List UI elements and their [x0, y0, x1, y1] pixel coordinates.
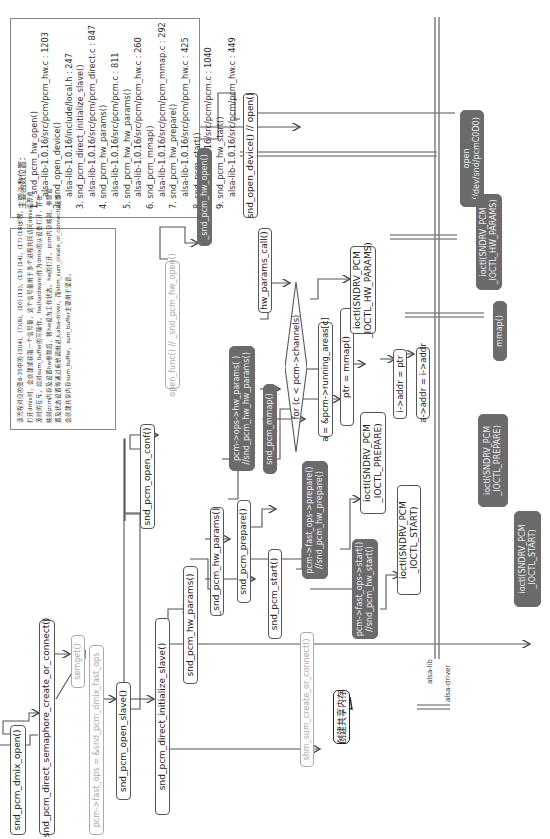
- node-line: pcm->ops->hw_params( ): [232, 356, 242, 461]
- function-location-legend: 主要函数位置： 1. _snd_pcm_hw_open() alsa-lib-1…: [10, 18, 200, 218]
- for-loop-label: for (c < pcm->channels): [285, 282, 307, 452]
- node-line: ioctl(SNDRV_PCM: [362, 424, 373, 502]
- legend-title: 主要函数位置：: [17, 27, 29, 209]
- node-snd-pcm-dmix-open: snd_pcm_dmix_open(): [10, 725, 26, 835]
- node-_snd-pcm-hw-params: _snd_pcm_hw_params(): [210, 507, 224, 616]
- node-line: //snd_pcm_hw_hw_params(): [242, 352, 252, 465]
- node-hw-open: _snd_pcm_hw_open(): [197, 148, 212, 246]
- node-ops-prepare: pcm->fast_ops->prepare() //snd_pcm_hw_pr…: [302, 461, 328, 579]
- legend-loc: alsa-lib-1.0.16/src/pcm/pcm_hw.c : 1203: [40, 27, 52, 209]
- desc-line: 会创建共享内存sum_buffer，sum_buffer主要用于混音。: [64, 235, 74, 423]
- node-ioctl-hw-params: ioctl(SNDRV_PCM _IOCTL_HW_PARAMS): [350, 246, 376, 334]
- node-semaphore-create-or-connect: snd_pcm_direct_semaphore_create_or_conne…: [39, 620, 55, 835]
- legend-loc: alsa-lib-1.0.16/src/pcm/pcm_hw.c : 449: [227, 27, 239, 209]
- node-fast-ops-assign: pcm->fast_ops = &snd_pcm_dmix_fast_ops: [89, 645, 104, 835]
- legend-func: 7. snd_pcm_hw_prepare(): [168, 27, 180, 209]
- driver-node-open: open (/dev/snd/pcmC0D0): [460, 110, 484, 207]
- node-line: _IOCTL_PREPARE): [373, 423, 384, 502]
- node-snd-pcm-open-conf: snd_pcm_open_conf(): [140, 424, 155, 529]
- node-line: ioctl(SNDRV_PCM: [352, 251, 363, 329]
- driver-node-ioctl-start: ioctl(SNDRV_PCM _IOCTL_START): [514, 511, 541, 607]
- node-line: //snd_pcm_hw_prepare(): [315, 471, 325, 569]
- legend-func: 5. snd_pcm_hw_hw_params(): [122, 27, 134, 209]
- node-line: pcm->fast_ops->prepare(): [305, 467, 315, 574]
- node-i-addr: i->addr = ptr: [393, 349, 407, 419]
- node-hw-params-call: hw_params_call(): [258, 228, 272, 313]
- node-a-addr: a->addr = i->addr: [416, 347, 430, 419]
- node-line: ioctl(SNDRV_PCM: [398, 501, 409, 579]
- node-snd-pcm-prepare: snd_pcm_prepare(): [237, 500, 251, 603]
- desc-line: 该流程对应的图8-35中的 (3)(4)、(7)(8)、(10) (11)、(1…: [16, 235, 26, 423]
- node-semget: semget(): [71, 635, 85, 688]
- node-line: ioctl(SNDRV_PCM: [483, 426, 493, 495]
- node-ioctl-prepare: ioctl(SNDRV_PCM _IOCTL_PREPARE): [360, 412, 386, 514]
- driver-node-mmap: mmap(): [493, 301, 507, 361]
- node-ioctl-start: ioctl(SNDRV_PCM _IOCTL_START): [397, 485, 421, 595]
- alsa-lib-label: alsa-lib: [426, 659, 434, 684]
- node-line: ioctl(SNDRV_PCM: [518, 524, 528, 593]
- node-line: _IOCTL_START): [409, 507, 420, 574]
- legend-loc: alsa-lib-1.0.16/src/pcm/pcm_hw.c : 260: [133, 27, 145, 209]
- node-snd-pcm-mmap: snd_pcm_mmap(): [263, 384, 277, 474]
- node-ops-hw-params: pcm->ops->hw_params( ) //snd_pcm_hw_hw_p…: [229, 346, 255, 471]
- node-for-channels-loop: for (c < pcm->channels): [285, 282, 307, 452]
- desc-line: 置及状态设置等通过系统调用进入alsa-driver。而shm_sum_crea…: [54, 235, 64, 423]
- node-line: pcm->fast_ops->start(): [355, 542, 365, 637]
- node-snd-pcm-start: snd_pcm_start(): [268, 549, 282, 639]
- node-line: //snd_pcm_hw_start(): [365, 546, 375, 631]
- node-shm-sum-create-or-connect: shm_sum_create_or_connect(): [300, 632, 314, 767]
- legend-func: 1. _snd_pcm_hw_open(): [29, 27, 41, 209]
- legend-loc: alsa-lib-1.0.16/include/local.h : 247: [64, 27, 76, 209]
- legend-loc: alsa-lib-1.0.16/src/pcm/pcm.c : 811: [110, 27, 122, 209]
- legend-func: 6. snd_pcm_mmap(): [145, 27, 157, 209]
- legend-loc: alsa-lib-1.0.16/src/pcm/pcm_hw.c : 425: [180, 27, 192, 209]
- legend-loc: alsa-lib-1.0.16/src/pcm/pcm_direct.c : 8…: [87, 27, 99, 209]
- legend-func: 3. snd_pcm_direct_initialize_slave(): [75, 27, 87, 209]
- legend-func: 9. snd_pcm_hw_start(): [215, 27, 227, 209]
- node-direct-initialize-slave: snd_pcm_direct_initialize_slave(): [155, 618, 170, 815]
- legend-func: 2. snd_open_device(): [52, 27, 64, 209]
- driver-node-ioctl-prepare: ioctl(SNDRV_PCM _IOCTL_PREPARE): [478, 414, 508, 507]
- callout-create-shared-memory: 创建共享内存: [333, 690, 350, 744]
- node-line: open: [462, 149, 472, 169]
- legend-func: 4. snd_pcm_hw_params(): [98, 27, 110, 209]
- node-line: (/dev/snd/pcmC0D0): [472, 117, 482, 200]
- node-line: _IOCTL_PREPARE): [493, 425, 503, 496]
- node-snd-pcm-hw-params: snd_pcm_hw_params(): [183, 566, 198, 684]
- desc-line: 打开dmix时，会创建或获取一个信号量，这个信号量用于多个进程共同访问dmix临…: [26, 235, 36, 423]
- driver-node-ioctl-hw-params: ioctl(SNDRV_PCM _IOCTL_HW_PARAMS): [476, 194, 502, 290]
- node-line: _IOCTL_HW_PARAMS): [363, 242, 374, 338]
- diagram-stage: 主要函数位置： 1. _snd_pcm_hw_open() alsa-lib-1…: [0, 0, 550, 839]
- node-snd-open-device: snd_open_device() // open(): [243, 93, 258, 218]
- node-line: ioctl(SNDRV_PCM: [479, 207, 489, 276]
- alsa-dmix-flow-diagram: 主要函数位置： 1. _snd_pcm_hw_open() alsa-lib-1…: [0, 0, 550, 839]
- legend-loc: alsa-lib-1.0.16/src/pcm/pcm_mmap.c : 292: [157, 27, 169, 209]
- node-line: _IOCTL_START): [528, 529, 538, 588]
- alsa-driver-label: alsa-driver: [444, 665, 452, 702]
- node-ops-start: pcm->fast_ops->start() //snd_pcm_hw_star…: [352, 539, 378, 639]
- node-open-func: open_func() // _snd_pcm_hw_open(): [165, 261, 180, 389]
- node-line: _IOCTL_HW_PARAMS): [489, 199, 499, 284]
- node-snd-pcm-open-slave: snd_pcm_open_slave(): [116, 682, 131, 800]
- description-note: 该流程对应的图8-35中的 (3)(4)、(7)(8)、(10) (11)、(1…: [10, 228, 116, 430]
- node-running-areas: a = &pcm->running_areas[c]: [318, 322, 333, 437]
- desc-line: 源时的互斥，如对sum_buffer的写操作。hw(hardware)作为dmi…: [35, 235, 45, 423]
- desc-line: 映射pcm内存及设置hw参数后，将hw设为工作状态。hw的打开、pcm内存映射、…: [45, 235, 55, 423]
